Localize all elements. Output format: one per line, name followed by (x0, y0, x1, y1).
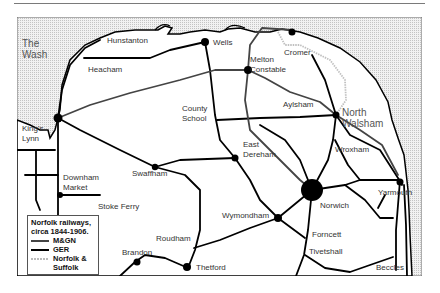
legend-label-norfolk-suffolk: Norfolk & (53, 254, 87, 263)
place-label-tivetshall: Tivetshall (309, 247, 343, 256)
sea-label-line1: The (22, 38, 40, 49)
place-label-swaffham: Swaffham (132, 169, 168, 178)
place-label-county: County (182, 104, 207, 113)
top-rule (14, 3, 425, 4)
place-label-wroxham: Wroxham (335, 145, 369, 154)
legend-label-ger: GER (53, 245, 69, 254)
place-label-north: North (342, 107, 366, 118)
place-label-hunstanton: Hunstanton (107, 36, 148, 45)
legend-label-suffolk: Suffolk (31, 263, 95, 272)
norfolk-suffolk-swatch (31, 258, 49, 260)
place-label-walsham: Walsham (342, 118, 383, 129)
place-label-yarmouth: Yarmouth (378, 188, 412, 197)
place-label-market: Market (63, 183, 88, 192)
place-label-aylsham: Aylsham (283, 100, 314, 109)
place-label-lynn: Lynn (22, 134, 39, 143)
legend-item-mgn: M&GN (31, 236, 95, 245)
place-label-thetford: Thetford (196, 263, 226, 272)
place-label-east: East (243, 140, 260, 149)
place-label-wymondham: Wymondham (222, 211, 269, 220)
place-label-stoke-ferry: Stoke Ferry (98, 202, 139, 211)
place-label-heacham: Heacham (88, 65, 123, 74)
place-label-melton: Melton (250, 55, 274, 64)
sea-label-line2: Wash (22, 49, 47, 60)
place-label-wells: Wells (213, 38, 232, 47)
legend-title-line2: circa 1844-1906. (31, 227, 95, 236)
place-label-forncett: Forncett (312, 230, 342, 239)
place-label-beccles: Beccles (376, 263, 404, 272)
legend-item-ger: GER (31, 245, 95, 254)
place-label-norwich: Norwich (320, 201, 349, 210)
place-label-constable: Constable (250, 65, 287, 74)
place-label-dereham: Dereham (243, 150, 276, 159)
legend-label-mgn: M&GN (53, 236, 76, 245)
place-label-downham: Downham (63, 173, 99, 182)
place-label-kings: King's (22, 124, 44, 133)
place-label-cromer: Cromer (284, 48, 311, 57)
mgn-swatch (31, 240, 49, 242)
place-label-school: School (182, 114, 207, 123)
legend-title-line1: Norfolk railways, (31, 218, 95, 227)
place-label-brandon: Brandon (122, 248, 152, 257)
map-legend: Norfolk railways, circa 1844-1906. M&GN … (27, 215, 99, 275)
ger-swatch (31, 249, 49, 251)
legend-item-norfolk-suffolk: Norfolk & (31, 254, 95, 263)
place-label-roudham: Roudham (156, 234, 191, 243)
